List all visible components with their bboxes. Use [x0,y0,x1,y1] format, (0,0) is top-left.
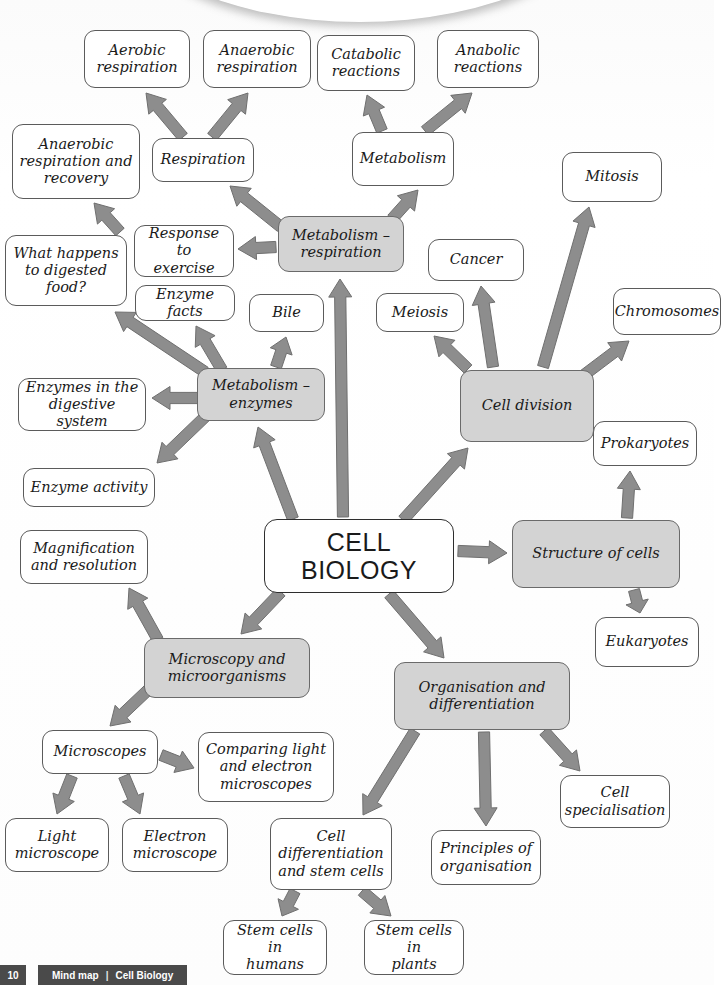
arrow-structure-to-eukaryotes [626,589,648,613]
mindmap-node-mitosis: Mitosis [562,152,662,202]
arrow-cell-biology-to-metabolism-enzymes [254,427,299,521]
mindmap-node-stem-cells-in-humans: Stem cells in humans [223,920,327,975]
arrow-cell-division-to-cancer [472,286,498,368]
arrow-respiration-to-anaerobic [208,93,248,141]
mindmap-node-bile: Bile [249,294,324,332]
breadcrumb-subject: Cell Biology [115,970,173,981]
mindmap-node-response-to-exercise: Response to exercise [134,225,234,277]
arrow-organisation-to-specialisation [540,727,580,771]
mindmap-node-metabolism-enzymes: Metabolism – enzymes [197,368,325,421]
mindmap-node-respiration: Respiration [152,138,254,182]
arrow-metabolism-enzymes-to-what-happens [115,312,208,377]
page-number: 10 [0,965,26,985]
arrow-response-to-anaerobic-recovery [94,203,124,236]
arrow-respiration-to-aerobic [146,93,187,141]
arrow-metabolism-respiration-to-respiration [230,186,285,231]
mindmap-node-magnification-resolution: Magnification and resolution [20,530,148,584]
arrow-microscopes-to-light [53,774,77,814]
mindmap-node-cancer: Cancer [428,239,524,281]
mindmap-node-organisation-differentiation: Organisation and differentiation [394,662,570,730]
arrow-cell-biology-to-organisation [385,590,444,658]
breadcrumb: Mind map | Cell Biology [38,965,187,985]
mindmap-node-comparing-light-electron-microscopes: Comparing light and electron microscopes [198,732,334,802]
arrow-cell-biology-to-metabolism-respiration [329,279,352,517]
mindmap-node-cell-specialisation: Cell specialisation [560,775,670,828]
mindmap-node-anabolic-reactions: Anabolic reactions [437,30,539,88]
arrow-structure-to-prokaryotes [617,471,640,518]
mindmap-node-meiosis: Meiosis [376,293,464,332]
breadcrumb-label: Mind map [52,970,99,981]
mindmap-node-cell-biology: CELL BIOLOGY [264,519,454,593]
mindmap-node-aerobic-respiration: Aerobic respiration [84,30,190,88]
arrow-metabolism-to-catabolic [363,95,387,133]
arrow-organisation-to-cell-diff [363,728,420,815]
mindmap-node-electron-microscope: Electron microscope [122,818,228,872]
mindmap-node-light-microscope: Light microscope [5,818,109,872]
mindmap-node-anaerobic-respiration-recovery: Anaerobic respiration and recovery [12,124,140,199]
breadcrumb-separator: | [106,970,109,981]
mindmap-node-microscopes: Microscopes [42,730,158,774]
mindmap-node-enzymes-digestive-system: Enzymes in the digestive system [18,378,146,431]
footer: 10 Mind map | Cell Biology [0,965,187,985]
mindmap-node-catabolic-reactions: Catabolic reactions [317,35,415,91]
mindmap-node-eukaryotes: Eukaryotes [595,617,699,667]
mindmap-node-prokaryotes: Prokaryotes [593,421,697,466]
arrow-organisation-to-principles [474,732,497,826]
arrow-metabolism-to-anabolic [421,93,472,135]
mindmap-node-what-happens-digested-food: What happens to digested food? [5,235,127,306]
arrow-cell-biology-to-structure [458,541,507,564]
mindmap-node-structure-of-cells: Structure of cells [512,520,680,588]
mindmap-node-cell-differentiation-stem-cells: Cell differentiation and stem cells [270,818,392,890]
page-top-arc-decoration [115,0,605,22]
arrow-metabolism-enzymes-to-enzyme-facts [195,326,227,373]
arrow-cell-diff-to-stem-humans [278,888,300,916]
arrow-cell-biology-to-cell-division [399,448,468,524]
mindmap-node-cell-division: Cell division [460,370,594,442]
mindmap-node-principles-of-organisation: Principles of organisation [431,830,541,885]
arrow-cell-division-to-mitosis [538,207,595,369]
mindmap-node-chromosomes: Chromosomes [613,288,721,335]
arrow-cell-division-to-meiosis [434,336,472,373]
arrow-metabolism-respiration-to-response [238,237,276,260]
arrow-metabolism-enzymes-to-digestive [152,387,199,410]
arrow-cell-diff-to-stem-plants [358,887,391,916]
arrow-microscopy-to-magnification [128,588,163,643]
arrow-metabolism-enzymes-to-bile [270,337,292,369]
arrow-microscopes-to-electron [119,774,144,814]
mindmap-node-enzyme-facts: Enzyme facts [135,285,235,321]
arrow-microscopes-to-comparing [159,750,194,773]
mindmap-node-stem-cells-in-plants: Stem cells in plants [364,920,464,975]
mindmap-node-metabolism-respiration: Metabolism – respiration [278,216,404,272]
mindmap-node-microscopy-microorganisms: Microscopy and microorganisms [144,638,310,698]
mindmap-node-metabolism: Metabolism [352,132,454,186]
mindmap-node-enzyme-activity: Enzyme activity [23,468,155,507]
mindmap-node-anaerobic-respiration: Anaerobic respiration [203,30,311,88]
arrow-cell-biology-to-microscopy [241,588,285,634]
